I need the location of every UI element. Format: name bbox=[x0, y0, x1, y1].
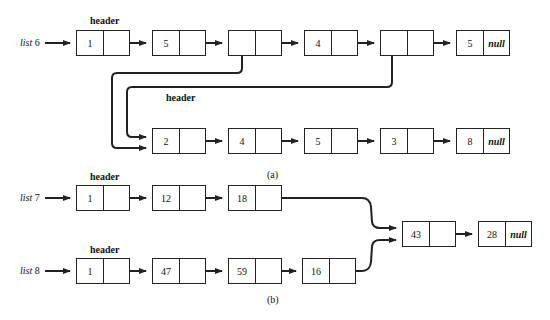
node-value bbox=[381, 31, 408, 55]
node-pointer bbox=[180, 259, 205, 283]
node-value: 28 bbox=[479, 222, 506, 246]
node-pointer-null: null bbox=[506, 222, 531, 246]
list6-label: list 6 bbox=[20, 37, 40, 48]
shared-node: 43 bbox=[402, 221, 456, 247]
node-pointer bbox=[180, 31, 205, 55]
shared-node: 28null bbox=[478, 221, 532, 247]
caption-a: (a) bbox=[267, 169, 278, 180]
merge-arrow-list7 bbox=[272, 198, 396, 228]
node-pointer-null: null bbox=[484, 129, 509, 153]
list8-label: list 8 bbox=[20, 265, 40, 276]
node-pointer bbox=[180, 186, 205, 210]
node-value: 3 bbox=[381, 129, 408, 153]
node-value: 4 bbox=[229, 129, 256, 153]
list-number: 8 bbox=[35, 265, 40, 276]
header-label: header bbox=[90, 171, 119, 182]
list-word: list bbox=[20, 37, 32, 48]
node-value: 5 bbox=[153, 31, 180, 55]
list-word: list bbox=[20, 265, 32, 276]
list-node: 1 bbox=[76, 30, 130, 56]
list-number: 7 bbox=[35, 192, 40, 203]
list-node: 1 bbox=[76, 258, 130, 284]
list-node bbox=[380, 30, 434, 56]
node-value: 43 bbox=[403, 222, 430, 246]
node-value: 1 bbox=[77, 31, 104, 55]
node-value: 47 bbox=[153, 259, 180, 283]
branch-arrow-2 bbox=[127, 44, 392, 137]
node-value: 12 bbox=[153, 186, 180, 210]
node-value: 5 bbox=[305, 129, 332, 153]
list-node: 1 bbox=[76, 185, 130, 211]
header-label: header bbox=[166, 92, 195, 103]
node-pointer bbox=[256, 31, 281, 55]
node-pointer bbox=[408, 31, 433, 55]
node-pointer bbox=[180, 129, 205, 153]
node-pointer bbox=[104, 259, 129, 283]
list-word: list bbox=[20, 192, 32, 203]
list-node: 3 bbox=[380, 128, 434, 154]
node-pointer bbox=[104, 186, 129, 210]
linked-list-diagram: list 6 header 1 5 4 5null header 2 4 5 3… bbox=[0, 0, 550, 320]
node-pointer bbox=[408, 129, 433, 153]
node-pointer bbox=[104, 31, 129, 55]
node-value: 1 bbox=[77, 186, 104, 210]
node-pointer bbox=[332, 31, 357, 55]
list-node: 5null bbox=[456, 30, 510, 56]
list-node: 4 bbox=[304, 30, 358, 56]
list-node: 8null bbox=[456, 128, 510, 154]
node-value: 59 bbox=[229, 259, 256, 283]
list-node: 12 bbox=[152, 185, 206, 211]
header-label: header bbox=[90, 244, 119, 255]
node-pointer bbox=[256, 259, 281, 283]
list-node: 59 bbox=[228, 258, 282, 284]
list-number: 6 bbox=[35, 37, 40, 48]
node-value: 2 bbox=[153, 129, 180, 153]
node-value bbox=[229, 31, 256, 55]
list-node bbox=[228, 30, 282, 56]
node-pointer bbox=[332, 129, 357, 153]
list-node: 47 bbox=[152, 258, 206, 284]
node-value: 1 bbox=[77, 259, 104, 283]
list-node: 5 bbox=[152, 30, 206, 56]
list-node: 18 bbox=[228, 185, 282, 211]
list-node: 4 bbox=[228, 128, 282, 154]
node-pointer bbox=[430, 222, 455, 246]
node-value: 18 bbox=[229, 186, 256, 210]
list7-label: list 7 bbox=[20, 192, 40, 203]
node-pointer bbox=[256, 129, 281, 153]
header-label: header bbox=[90, 15, 119, 26]
node-value: 16 bbox=[303, 259, 330, 283]
node-value: 8 bbox=[457, 129, 484, 153]
list-node: 2 bbox=[152, 128, 206, 154]
list-node: 16 bbox=[302, 258, 356, 284]
caption-b: (b) bbox=[267, 294, 279, 305]
node-pointer bbox=[330, 259, 355, 283]
node-pointer bbox=[256, 186, 281, 210]
node-value: 5 bbox=[457, 31, 484, 55]
node-pointer-null: null bbox=[484, 31, 509, 55]
list-node: 5 bbox=[304, 128, 358, 154]
node-value: 4 bbox=[305, 31, 332, 55]
